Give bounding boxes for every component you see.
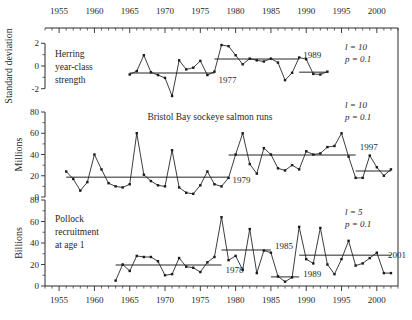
y-tick-label: 20 (30, 171, 40, 181)
data-point (227, 177, 229, 179)
pollock-panel-label-line: Pollock (55, 214, 84, 224)
data-point (383, 175, 385, 177)
data-point (340, 258, 342, 260)
data-point (199, 60, 201, 62)
salmon-panel-title: Bristol Bay sockeye salmon runs (147, 112, 272, 122)
data-point (333, 145, 335, 147)
x-tick-label: 1995 (333, 6, 352, 16)
y-axis-title: Millions (13, 137, 24, 171)
data-point (227, 45, 229, 47)
data-point (234, 54, 236, 56)
data-point (263, 249, 265, 251)
data-point (354, 177, 356, 179)
data-point (241, 63, 243, 65)
herring-panel-label-line: strength (55, 75, 86, 85)
data-point (326, 146, 328, 148)
x-tick-label: 1955 (50, 6, 69, 16)
data-series-line (130, 45, 328, 96)
pollock-panel-label: Pollockrecruitmentat age 1 (55, 214, 99, 250)
data-point (277, 61, 279, 63)
shift-year-label: 1985 (275, 241, 294, 251)
data-series-line (66, 133, 391, 194)
data-point (213, 183, 215, 185)
y-tick-label: 20 (30, 260, 40, 270)
y-tick-label: 2 (35, 38, 40, 48)
data-point (121, 186, 123, 188)
data-point (362, 177, 364, 179)
data-point (249, 57, 251, 59)
data-point (270, 153, 272, 155)
data-point (86, 181, 88, 183)
data-point (114, 185, 116, 187)
pollock-panel-label-line: recruitment (55, 227, 99, 237)
data-point (178, 186, 180, 188)
data-point (298, 56, 300, 58)
x-tick-label: 1970 (156, 6, 175, 16)
data-point (206, 261, 208, 263)
data-point (185, 192, 187, 194)
data-point (291, 72, 293, 74)
data-point (312, 73, 314, 75)
x-tick-label: 1955 (50, 295, 69, 305)
data-point (164, 185, 166, 187)
data-point (256, 59, 258, 61)
data-point (192, 67, 194, 69)
data-point (234, 255, 236, 257)
data-point (362, 262, 364, 264)
x-tick-label: 1960 (85, 6, 104, 16)
data-point (129, 270, 131, 272)
data-point (326, 70, 328, 72)
stat-p-label: p = 0.1 (344, 219, 371, 229)
data-point (157, 184, 159, 186)
x-tick-label: 1980 (227, 295, 246, 305)
data-point (178, 59, 180, 61)
data-point (312, 262, 314, 264)
x-tick-label: 1985 (262, 295, 281, 305)
data-point (298, 168, 300, 170)
y-tick-label: 0 (35, 281, 40, 291)
data-point (185, 265, 187, 267)
data-point (79, 189, 81, 191)
y-tick-label: 40 (30, 150, 40, 160)
data-point (93, 153, 95, 155)
data-point (326, 263, 328, 265)
data-point (340, 132, 342, 134)
salmon-panel-title-line: Bristol Bay sockeye salmon runs (147, 112, 272, 122)
data-point (319, 73, 321, 75)
x-tick-label: 1970 (156, 295, 175, 305)
shift-year-label: 2001 (388, 250, 406, 260)
data-point (199, 271, 201, 273)
data-point (192, 267, 194, 269)
data-point (249, 163, 251, 165)
data-point (277, 275, 279, 277)
x-tick-label: 1975 (191, 6, 210, 16)
data-point (376, 251, 378, 253)
x-tick-label: 2000 (368, 6, 387, 16)
data-point (150, 256, 152, 258)
y-tick-label: 60 (30, 217, 40, 227)
data-point (298, 226, 300, 228)
data-point (333, 273, 335, 275)
data-point (114, 279, 116, 281)
shift-year-label: 1989 (303, 50, 322, 60)
chart-canvas: 1955196019651970197519801985199019952000… (0, 0, 412, 320)
data-point (284, 281, 286, 283)
data-point (192, 193, 194, 195)
data-point (347, 155, 349, 157)
y-tick-label: 80 (30, 195, 40, 205)
data-point (65, 170, 67, 172)
data-point (256, 272, 258, 274)
data-point (143, 173, 145, 175)
data-point (72, 178, 74, 180)
data-point (319, 152, 321, 154)
data-point (263, 147, 265, 149)
data-point (369, 154, 371, 156)
data-point (129, 73, 131, 75)
data-point (171, 95, 173, 97)
data-point (390, 272, 392, 274)
y-tick-label: 60 (30, 128, 40, 138)
shift-year-label: 1977 (218, 75, 237, 85)
data-point (347, 240, 349, 242)
data-point (234, 153, 236, 155)
y-tick-label: 80 (30, 107, 40, 117)
